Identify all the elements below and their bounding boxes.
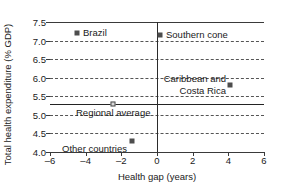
y-tick-label-4.5: 4.5 — [33, 128, 46, 139]
data-point-regional-average — [111, 101, 116, 106]
x-tick-label-neg4: –4 — [80, 155, 91, 166]
data-label-southern-cone: Southern cone — [166, 29, 228, 41]
data-point-other-countries — [130, 138, 135, 143]
data-label-other-countries: Other countries — [62, 143, 127, 155]
x-tick-label-neg2: –2 — [116, 155, 127, 166]
x-tick-label-2: 2 — [190, 155, 195, 166]
y-tick-label-6.0: 6.0 — [33, 72, 46, 83]
data-label-caribbean-costa-rica-line2: Costa Rica — [180, 85, 226, 97]
y-tick-mark-7.0 — [46, 41, 50, 42]
y-tick-mark-7.5 — [46, 22, 50, 23]
y-axis-title: Total health expenditure (% GDP) — [0, 0, 16, 189]
zero-health-gap-line — [157, 22, 158, 152]
y-tick-mark-6.5 — [46, 59, 50, 60]
y-tick-label-5.0: 5.0 — [33, 109, 46, 120]
y-tick-mark-4.5 — [46, 133, 50, 134]
y-tick-mark-5.0 — [46, 115, 50, 116]
y-tick-label-5.5: 5.5 — [33, 91, 46, 102]
x-axis-title: Health gap (years) — [50, 171, 264, 182]
x-tick-label-6: 6 — [261, 155, 266, 166]
y-tick-label-7.5: 7.5 — [33, 17, 46, 28]
data-label-caribbean-costa-rica-line1: Caribbean and — [164, 73, 226, 85]
data-label-brazil: Brazil — [83, 27, 107, 39]
plot-area: 7.5 7.0 6.5 6.0 5.5 5.0 4.5 4.0 –6 –4 –2… — [50, 22, 264, 152]
data-point-brazil — [74, 31, 79, 36]
y-tick-mark-5.5 — [46, 96, 50, 97]
data-label-regional-average: Regional average — [76, 107, 150, 119]
data-point-caribbean-costa-rica — [228, 83, 233, 88]
y-tick-mark-6.0 — [46, 78, 50, 79]
x-tick-label-4: 4 — [226, 155, 231, 166]
y-tick-label-6.5: 6.5 — [33, 54, 46, 65]
y-tick-label-7.0: 7.0 — [33, 35, 46, 46]
scatter-chart-figure: Total health expenditure (% GDP) Health … — [0, 0, 287, 189]
data-point-southern-cone — [157, 33, 162, 38]
x-tick-label-0: 0 — [154, 155, 159, 166]
x-tick-label-neg6: –6 — [45, 155, 56, 166]
